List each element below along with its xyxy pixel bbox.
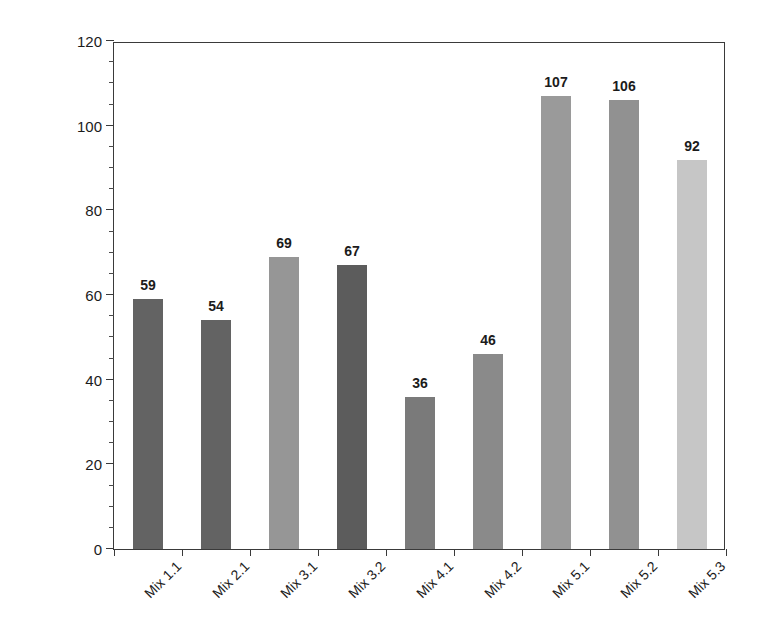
- bar[interactable]: [337, 265, 367, 549]
- bars-layer: 59546967364610710692: [114, 43, 724, 549]
- bar-chart: Modulus of Stiffness, (MPa) 020406080100…: [0, 0, 761, 633]
- x-axis-label: Mix 5.3: [685, 558, 728, 601]
- x-axis-label: Mix 2.1: [209, 558, 252, 601]
- bar[interactable]: [473, 354, 503, 549]
- bar[interactable]: [541, 96, 571, 549]
- x-tick: [454, 549, 455, 556]
- x-tick: [318, 549, 319, 556]
- x-axis-label-text: Mix 3.2: [345, 558, 388, 601]
- x-tick: [386, 549, 387, 556]
- x-tick: [114, 549, 115, 556]
- bar[interactable]: [405, 397, 435, 549]
- x-tick: [726, 549, 727, 556]
- bar-group[interactable]: 106: [609, 41, 639, 549]
- x-axis-label-text: Mix 4.1: [413, 558, 456, 601]
- x-axis-label-text: Mix 5.3: [685, 558, 728, 601]
- y-tick-major: [106, 379, 114, 380]
- y-axis-title-text: Modulus of Stiffness, (MPa): [0, 480, 50, 496]
- x-axis-label: Mix 3.1: [277, 558, 320, 601]
- bar-group[interactable]: 67: [337, 41, 367, 549]
- y-tick-major: [106, 125, 114, 126]
- x-tick: [182, 549, 183, 556]
- bar[interactable]: [201, 320, 231, 549]
- y-tick-label: 60: [85, 287, 102, 304]
- x-axis-label: Mix 5.2: [617, 558, 660, 601]
- y-tick-major: [106, 40, 114, 41]
- y-tick-label: 80: [85, 202, 102, 219]
- bar-value-label: 92: [684, 138, 700, 154]
- x-tick: [250, 549, 251, 556]
- bar-group[interactable]: 36: [405, 41, 435, 549]
- x-axis-label: Mix 4.1: [413, 558, 456, 601]
- x-axis-label-text: Mix 4.2: [481, 558, 524, 601]
- bar-value-label: 46: [480, 332, 496, 348]
- x-tick: [590, 549, 591, 556]
- bar-group[interactable]: 92: [677, 41, 707, 549]
- bar[interactable]: [609, 100, 639, 549]
- x-axis-label: Mix 3.2: [345, 558, 388, 601]
- bar-group[interactable]: 46: [473, 41, 503, 549]
- bar-group[interactable]: 69: [269, 41, 299, 549]
- bar[interactable]: [269, 257, 299, 549]
- y-tick-label: 100: [77, 117, 102, 134]
- bar-value-label: 106: [612, 78, 635, 94]
- y-tick-label: 40: [85, 371, 102, 388]
- x-axis-label: Mix 1.1: [141, 558, 184, 601]
- y-tick-major: [106, 463, 114, 464]
- bar-value-label: 67: [344, 243, 360, 259]
- x-axis-label-text: Mix 1.1: [141, 558, 184, 601]
- y-tick-major: [106, 548, 114, 549]
- bar[interactable]: [677, 160, 707, 549]
- x-axis-label-text: Mix 3.1: [277, 558, 320, 601]
- plot-area: 020406080100120 59546967364610710692: [113, 42, 725, 550]
- x-axis-label: Mix 4.2: [481, 558, 524, 601]
- x-axis-label: Mix 5.1: [549, 558, 592, 601]
- x-axis-label-text: Mix 5.2: [617, 558, 660, 601]
- bar-group[interactable]: 107: [541, 41, 571, 549]
- x-tick: [522, 549, 523, 556]
- bar[interactable]: [133, 299, 163, 549]
- y-tick-label: 20: [85, 456, 102, 473]
- bar-value-label: 107: [544, 74, 567, 90]
- y-axis-title: Modulus of Stiffness, (MPa): [28, 100, 50, 480]
- y-tick-major: [106, 209, 114, 210]
- y-tick-label: 120: [77, 33, 102, 50]
- y-tick-label: 0: [94, 541, 102, 558]
- x-axis-label-text: Mix 2.1: [209, 558, 252, 601]
- bar-value-label: 36: [412, 375, 428, 391]
- x-axis-label-text: Mix 5.1: [549, 558, 592, 601]
- x-axis-labels: Mix 1.1Mix 2.1Mix 3.1Mix 3.2Mix 4.1Mix 4…: [113, 558, 725, 633]
- bar-value-label: 69: [276, 235, 292, 251]
- bar-value-label: 54: [208, 298, 224, 314]
- bar-value-label: 59: [140, 277, 156, 293]
- bar-group[interactable]: 59: [133, 41, 163, 549]
- bar-group[interactable]: 54: [201, 41, 231, 549]
- x-tick: [658, 549, 659, 556]
- y-tick-major: [106, 294, 114, 295]
